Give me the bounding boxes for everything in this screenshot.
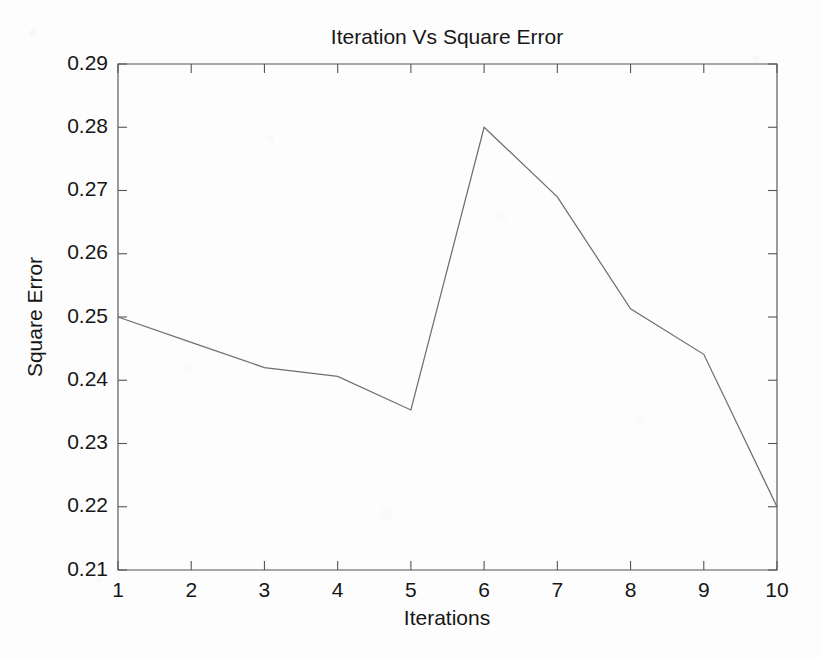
plot-axes-box bbox=[118, 64, 777, 570]
chart-page: 0.210.220.230.240.250.260.270.280.29 123… bbox=[0, 0, 821, 659]
x-axis-label: Iterations bbox=[404, 606, 490, 629]
y-axis-tick-labels: 0.210.220.230.240.250.260.270.280.29 bbox=[67, 51, 108, 580]
x-tick-label: 9 bbox=[698, 578, 710, 601]
y-tick-label: 0.29 bbox=[67, 51, 108, 74]
y-tick-label: 0.22 bbox=[67, 493, 108, 516]
x-tick-label: 10 bbox=[765, 578, 788, 601]
y-tick-label: 0.25 bbox=[67, 304, 108, 327]
x-tick-label: 6 bbox=[478, 578, 490, 601]
x-tick-label: 2 bbox=[185, 578, 197, 601]
chart-title: Iteration Vs Square Error bbox=[331, 25, 563, 48]
y-tick-label: 0.23 bbox=[67, 430, 108, 453]
y-tick-label: 0.21 bbox=[67, 557, 108, 580]
y-tick-label: 0.28 bbox=[67, 114, 108, 137]
x-tick-label: 4 bbox=[332, 578, 344, 601]
y-tick-label: 0.27 bbox=[67, 177, 108, 200]
square-error-line bbox=[118, 127, 777, 507]
tick-marks bbox=[118, 64, 777, 570]
x-tick-label: 8 bbox=[625, 578, 637, 601]
x-tick-label: 1 bbox=[112, 578, 124, 601]
x-axis-tick-labels: 12345678910 bbox=[112, 578, 789, 601]
y-tick-label: 0.26 bbox=[67, 240, 108, 263]
x-tick-label: 3 bbox=[259, 578, 271, 601]
y-axis-label: Square Error bbox=[23, 257, 46, 377]
y-tick-label: 0.24 bbox=[67, 367, 108, 390]
line-chart-figure: 0.210.220.230.240.250.260.270.280.29 123… bbox=[0, 0, 821, 659]
x-tick-label: 7 bbox=[551, 578, 563, 601]
chart-canvas: 0.210.220.230.240.250.260.270.280.29 123… bbox=[0, 0, 821, 659]
x-tick-label: 5 bbox=[405, 578, 417, 601]
